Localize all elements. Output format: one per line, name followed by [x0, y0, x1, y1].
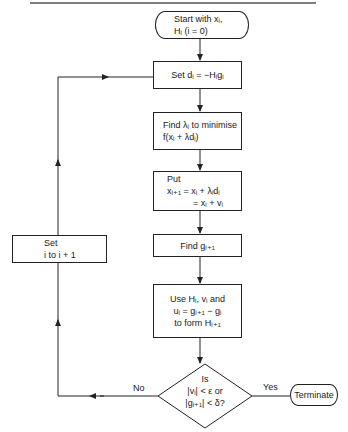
start-line-2: Hᵢ (i = 0) — [174, 25, 208, 37]
decision-line-3: |gᵢ₊₁| < δ? — [160, 397, 250, 409]
update-x-line-2: xᵢ₊₁ = xᵢ + λᵢdᵢ — [167, 185, 241, 197]
update-x-node: Put xᵢ₊₁ = xᵢ + λᵢdᵢ = xᵢ + vᵢ — [153, 171, 242, 211]
increment-line-1: Set — [44, 237, 106, 249]
line-search-node: Find λᵢ to minimise f(xᵢ + λdᵢ) — [153, 112, 242, 150]
decision-line-2: |vᵢ| < ε or — [160, 385, 250, 397]
increment-line-2: i to i + 1 — [44, 249, 106, 261]
find-gradient-node: Find gᵢ₊₁ — [153, 234, 242, 257]
line-search-line-1: Find λᵢ to minimise — [163, 119, 241, 131]
terminate-node: Terminate — [290, 384, 338, 406]
update-h-node: Use Hᵢ, vᵢ and uᵢ = gᵢ₊₁ − gᵢ to form Hᵢ… — [153, 284, 242, 338]
update-x-line-3: = xᵢ + vᵢ — [167, 197, 241, 209]
no-label: No — [133, 383, 145, 394]
set-direction-node: Set dᵢ = −Hᵢgᵢ — [153, 61, 242, 89]
update-h-line-1: Use Hᵢ, vᵢ and — [170, 293, 225, 305]
start-node: Start with xᵢ, Hᵢ (i = 0) — [155, 11, 249, 39]
start-line-1: Start with xᵢ, — [174, 13, 222, 25]
decision-line-1: Is — [160, 373, 250, 385]
find-gradient-text: Find gᵢ₊₁ — [180, 240, 214, 252]
update-x-line-1: Put — [167, 173, 241, 185]
yes-label: Yes — [263, 382, 278, 393]
set-direction-text: Set dᵢ = −Hᵢgᵢ — [171, 69, 223, 81]
flowchart: Start with xᵢ, Hᵢ (i = 0) Set dᵢ = −Hᵢgᵢ… — [0, 0, 348, 432]
terminate-text: Terminate — [294, 389, 334, 401]
update-h-line-3: to form Hᵢ₊₁ — [174, 317, 220, 329]
update-h-line-2: uᵢ = gᵢ₊₁ − gᵢ — [174, 305, 222, 317]
line-search-line-2: f(xᵢ + λdᵢ) — [163, 131, 241, 143]
increment-node: Set i to i + 1 — [12, 235, 107, 263]
decision-text: Is |vᵢ| < ε or |gᵢ₊₁| < δ? — [160, 373, 250, 409]
